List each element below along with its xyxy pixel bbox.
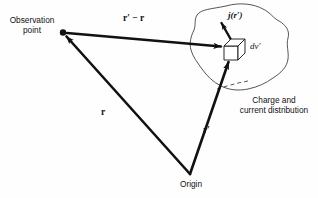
- distribution-caption-line1: Charge and: [252, 95, 295, 105]
- volume-element-cube: [224, 39, 245, 60]
- current-density-label: j(r′): [228, 10, 243, 21]
- distribution-caption-line2: current distribution: [240, 105, 308, 115]
- physics-diagram: Observation point r′ − r j(r′) dv′ Charg…: [0, 0, 318, 198]
- distribution-caption: Charge andcurrent distribution: [232, 96, 316, 116]
- observation-point-label: Observation point: [3, 16, 61, 36]
- volume-element-label: dv′: [250, 41, 260, 52]
- origin-label: Origin: [167, 180, 215, 190]
- field-vector-label: r: [101, 107, 105, 118]
- vector-r-prime: [190, 62, 229, 174]
- separation-vector-label: r′ − r: [123, 13, 144, 24]
- vector-r-prime-minus-r: [67, 33, 221, 47]
- vector-r: [67, 37, 191, 175]
- source-vector-label: r′: [203, 125, 210, 136]
